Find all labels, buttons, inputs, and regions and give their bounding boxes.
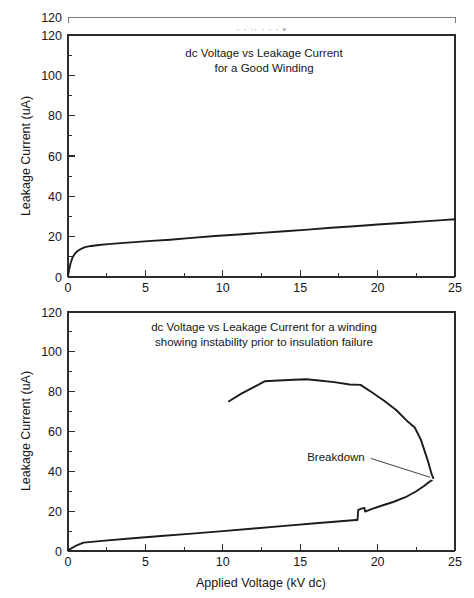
xtick-5: 5 xyxy=(142,281,149,295)
ytick-20: 20 xyxy=(48,505,62,519)
xtick-5: 5 xyxy=(142,555,149,569)
ytick-0: 0 xyxy=(55,545,62,559)
unstable-winding-svg: 0 20 40 60 80 100 120 0 5 10 15 20 25 Le… xyxy=(0,298,474,598)
xtick-20: 20 xyxy=(371,281,385,295)
ytick-80: 80 xyxy=(48,385,62,399)
series-good-winding xyxy=(68,219,455,276)
xtick-25: 25 xyxy=(448,281,462,295)
chart-title-line-1: dc Voltage vs Leakage Current xyxy=(185,47,343,59)
ytick-20: 20 xyxy=(48,230,62,244)
xtick-0: 0 xyxy=(65,555,72,569)
chart-title-line-2: for a Good Winding xyxy=(214,62,313,74)
y-axis-title: Leakage Current (uA) xyxy=(19,96,33,216)
ytick-60: 60 xyxy=(48,150,62,164)
y-axis-tick-labels: 0 20 40 60 80 100 120 xyxy=(41,29,62,285)
ytick-100: 100 xyxy=(41,69,62,83)
ytick-40: 40 xyxy=(48,465,62,479)
x-axis-tick-labels: 0 5 10 15 20 25 xyxy=(65,555,462,569)
chart-title-line-1: dc Voltage vs Leakage Current for a wind… xyxy=(151,321,377,333)
y-axis-title: Leakage Current (uA) xyxy=(19,371,33,491)
xtick-15: 15 xyxy=(293,555,307,569)
ytick-60: 60 xyxy=(48,425,62,439)
good-winding-svg: 120 · · ·· · · · ▪ xyxy=(0,0,474,300)
x-axis-title: Applied Voltage (kV dc) xyxy=(196,576,326,590)
breakdown-leader-line xyxy=(371,458,430,477)
xtick-20: 20 xyxy=(371,555,385,569)
x-axis-minor-ticks xyxy=(107,273,417,277)
xtick-10: 10 xyxy=(216,281,230,295)
chart-panel-unstable-winding: 0 20 40 60 80 100 120 0 5 10 15 20 25 Le… xyxy=(0,298,474,598)
breakdown-annotation-label: Breakdown xyxy=(307,451,365,463)
ghost-ytick-label-120: 120 xyxy=(41,11,62,25)
ytick-100: 100 xyxy=(41,345,62,359)
xtick-10: 10 xyxy=(216,555,230,569)
ytick-0: 0 xyxy=(55,271,62,285)
xtick-0: 0 xyxy=(65,281,72,295)
ytick-120: 120 xyxy=(41,29,62,43)
chart-panel-good-winding: 120 · · ·· · · · ▪ xyxy=(0,0,474,300)
y-axis-tick-labels: 0 20 40 60 80 100 120 xyxy=(41,306,62,559)
figure-root: 120 · · ·· · · · ▪ xyxy=(0,0,474,598)
series-upper-branch xyxy=(229,379,433,478)
x-axis-tick-labels: 0 5 10 15 20 25 xyxy=(65,281,462,295)
ytick-120: 120 xyxy=(41,306,62,320)
chart-title-line-2: showing instability prior to insulation … xyxy=(155,336,373,348)
y-axis-major-ticks xyxy=(68,35,75,277)
xtick-15: 15 xyxy=(293,281,307,295)
x-axis-minor-ticks xyxy=(107,547,417,551)
xtick-25: 25 xyxy=(448,555,462,569)
y-axis-major-ticks xyxy=(68,312,75,551)
ytick-40: 40 xyxy=(48,190,62,204)
ytick-80: 80 xyxy=(48,109,62,123)
series-lower-branch xyxy=(68,481,432,551)
ghost-title-line: · · ·· · · · ▪ xyxy=(236,23,286,35)
